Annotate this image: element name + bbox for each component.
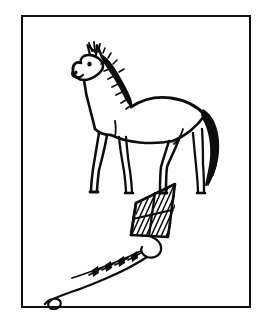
horse-forelock xyxy=(89,42,100,52)
horse-mane-fringe xyxy=(101,62,130,109)
horse-chest xyxy=(95,129,111,135)
kite-tail-string xyxy=(45,257,147,309)
horse-body-outline xyxy=(73,55,103,80)
horse-topline xyxy=(131,97,205,115)
horse-hind-leg-off xyxy=(193,133,198,193)
kite-bridle-loop xyxy=(141,236,161,258)
horse-neck-front xyxy=(84,80,95,129)
horse-hind-leg-off-back xyxy=(202,129,204,193)
horse-drawing xyxy=(72,42,219,193)
kite-ribbons xyxy=(89,251,141,277)
horse-eye xyxy=(87,61,91,66)
horse-front-leg-off xyxy=(119,137,126,193)
horse-front-leg-off-back xyxy=(126,137,132,193)
horse-shoulder-line xyxy=(115,121,116,136)
picture-border xyxy=(21,15,251,308)
horse-nostril xyxy=(75,71,78,75)
horse-rump xyxy=(173,115,205,141)
illustration-canvas xyxy=(23,17,253,310)
drawing-page xyxy=(0,0,272,321)
kite-drawing xyxy=(45,181,191,309)
